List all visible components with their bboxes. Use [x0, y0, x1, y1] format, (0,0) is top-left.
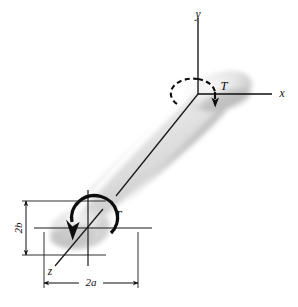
- x-axis-label: x: [278, 87, 285, 99]
- lower-torque-label: T: [115, 208, 123, 222]
- torsion-shaft-figure: 2b 2a y x z T T: [0, 0, 298, 307]
- z-axis-label: z: [47, 265, 53, 277]
- dim-2b-label: 2b: [12, 222, 24, 234]
- dim-2a-label: 2a: [86, 276, 98, 288]
- upper-torque-label: T: [221, 79, 229, 93]
- figure-canvas: 2b 2a y x z T T: [0, 0, 298, 307]
- y-axis-label: y: [194, 8, 201, 21]
